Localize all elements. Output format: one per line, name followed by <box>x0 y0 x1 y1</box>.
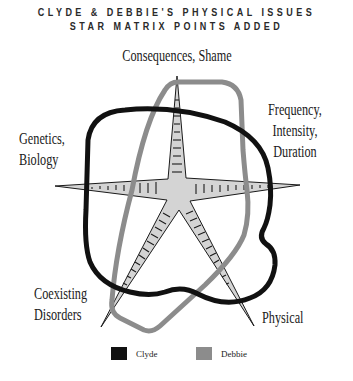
debbie-swatch-icon <box>196 347 212 360</box>
axis-label-line: Disorders <box>34 304 87 325</box>
legend-label: Clyde <box>136 349 158 359</box>
legend-item-debbie: Debbie <box>196 347 247 360</box>
axis-label-coexisting-disorders: Coexisting Disorders <box>34 283 87 325</box>
legend-label: Debbie <box>221 349 247 359</box>
legend: Clyde Debbie <box>0 347 353 363</box>
legend-item-clyde: Clyde <box>111 347 158 360</box>
clyde-swatch-icon <box>111 347 127 360</box>
axis-label-line: Frequency, <box>268 99 322 120</box>
axis-label-genetics-biology: Genetics, Biology <box>19 128 65 170</box>
axis-label-physical: Physical <box>262 307 303 328</box>
axis-label-line: Duration <box>268 141 322 162</box>
axis-label-line: Genetics, <box>19 128 65 149</box>
axis-label-line: Intensity, <box>268 120 322 141</box>
axis-label-line: Biology <box>19 149 65 170</box>
axis-label-frequency-intensity-duration: Frequency, Intensity, Duration <box>268 99 322 162</box>
axis-label-line: Coexisting <box>34 283 87 304</box>
axis-label-consequences-shame: Consequences, Shame <box>122 45 231 66</box>
